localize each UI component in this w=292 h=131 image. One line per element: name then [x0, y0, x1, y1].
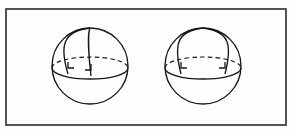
- figure-container: [0, 0, 292, 131]
- spheres-diagram: [0, 0, 292, 131]
- figure-border: [6, 9, 286, 125]
